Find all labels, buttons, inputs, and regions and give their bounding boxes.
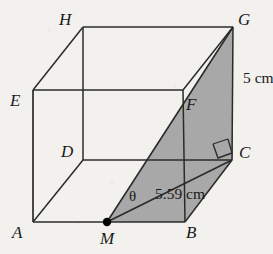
figure-canvas: A B C D E F G H M 5 cm 5.59 cm θ — [0, 0, 273, 254]
cuboid-diagram-svg — [0, 0, 273, 254]
vertex-label-G: G — [238, 11, 250, 28]
midpoint-marker-m — [103, 218, 111, 226]
vertex-label-D: D — [61, 143, 73, 160]
vertex-label-E: E — [10, 92, 20, 109]
vertex-label-F: F — [186, 96, 196, 113]
dimension-label-mc: 5.59 cm — [155, 186, 205, 202]
angle-label-theta: θ — [129, 189, 136, 204]
dimension-label-cg: 5 cm — [243, 70, 273, 86]
edge-AD — [33, 160, 83, 222]
vertex-label-C: C — [239, 144, 250, 161]
vertex-label-A: A — [12, 224, 22, 241]
edge-EH — [33, 27, 83, 90]
vertex-label-M: M — [100, 230, 114, 247]
vertex-label-B: B — [186, 224, 196, 241]
vertex-label-H: H — [59, 11, 71, 28]
edge-CG — [232, 27, 233, 160]
